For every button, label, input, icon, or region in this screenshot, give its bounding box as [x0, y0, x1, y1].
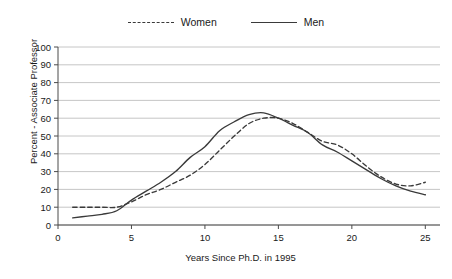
- series-line-women: [73, 118, 426, 208]
- y-tick-label-70: 70: [40, 95, 51, 106]
- y-tick-label-80: 80: [40, 77, 51, 88]
- y-tick-label-10: 10: [40, 202, 51, 213]
- y-tick-label-60: 60: [40, 113, 51, 124]
- y-tick-label-100: 100: [35, 42, 51, 53]
- series-group: [73, 113, 426, 218]
- gridlines-group: [58, 47, 440, 225]
- series-line-men: [73, 113, 426, 218]
- y-tick-label-40: 40: [40, 148, 51, 159]
- plot-area: 0102030405060708090100 0510152025: [0, 0, 452, 279]
- y-tick-label-20: 20: [40, 184, 51, 195]
- x-tick-label-20: 20: [347, 232, 358, 243]
- y-tick-label-90: 90: [40, 59, 51, 70]
- y-tick-group: 0102030405060708090100: [35, 42, 58, 231]
- chart-figure: Women Men Percent - Associate Professor …: [0, 0, 452, 279]
- y-tick-label-50: 50: [40, 131, 51, 142]
- y-tick-label-0: 0: [46, 220, 51, 231]
- x-tick-label-25: 25: [420, 232, 431, 243]
- y-tick-label-30: 30: [40, 166, 51, 177]
- x-tick-group: 0510152025: [55, 225, 430, 243]
- x-tick-label-15: 15: [273, 232, 284, 243]
- x-tick-label-0: 0: [55, 232, 60, 243]
- x-tick-label-5: 5: [129, 232, 134, 243]
- x-tick-label-10: 10: [200, 232, 211, 243]
